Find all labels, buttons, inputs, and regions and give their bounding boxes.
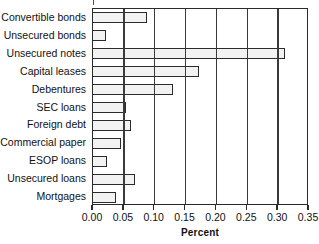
x-axis-tick: [122, 205, 123, 210]
x-axis-tick: [91, 205, 92, 210]
x-axis-tick: [307, 205, 308, 210]
category-axis-labels: Convertible bondsUnsecured bondsUnsecure…: [0, 8, 89, 205]
gridline: [277, 9, 278, 204]
category-label: ESOP loans: [29, 154, 86, 166]
x-axis-tick: [184, 205, 185, 210]
gridline: [123, 9, 124, 204]
gridline: [154, 9, 155, 204]
x-axis-tick: [153, 205, 154, 210]
gridline: [185, 9, 186, 204]
bar: [92, 174, 135, 185]
x-axis-tick-label: 0.35: [298, 211, 318, 224]
x-axis-tick: [215, 205, 216, 210]
bar: [92, 192, 115, 203]
bar: [92, 138, 120, 149]
x-axis-tick-label: 0.15: [174, 211, 194, 224]
bar: [92, 30, 106, 41]
bar: [92, 102, 126, 113]
bar: [92, 120, 131, 131]
category-label: Mortgages: [36, 190, 86, 202]
bar: [92, 66, 198, 77]
top-axis-tick-mark: [93, 0, 94, 5]
bar: [92, 12, 147, 23]
x-axis-tick-label: 0.00: [82, 211, 102, 224]
x-axis-tick-label: 0.05: [113, 211, 133, 224]
x-axis-tick-label: 0.20: [205, 211, 225, 224]
category-label: Debentures: [32, 83, 86, 95]
bar: [92, 84, 172, 95]
category-label: Foreign debt: [27, 118, 86, 130]
bar: [92, 48, 285, 59]
bars-layer: [93, 9, 307, 204]
plot-area: [92, 8, 308, 205]
bar: [92, 156, 107, 167]
bar-chart: Convertible bondsUnsecured bondsUnsecure…: [0, 0, 319, 244]
category-label: Unsecured notes: [7, 47, 86, 59]
category-label: Capital leases: [20, 65, 86, 77]
x-axis-tick-label: 0.10: [143, 211, 163, 224]
x-axis-title: Percent: [92, 227, 308, 238]
x-axis-tick-label: 0.25: [236, 211, 256, 224]
x-axis-tick: [276, 205, 277, 210]
category-label: Commercial paper: [0, 136, 86, 148]
category-label: Convertible bonds: [1, 11, 86, 23]
x-axis-tick-label: 0.30: [267, 211, 287, 224]
category-label: Unsecured loans: [7, 172, 86, 184]
category-label: SEC loans: [36, 101, 86, 113]
gridline: [247, 9, 248, 204]
category-label: Unsecured bonds: [4, 29, 86, 41]
gridline: [216, 9, 217, 204]
x-axis-tick: [246, 205, 247, 210]
